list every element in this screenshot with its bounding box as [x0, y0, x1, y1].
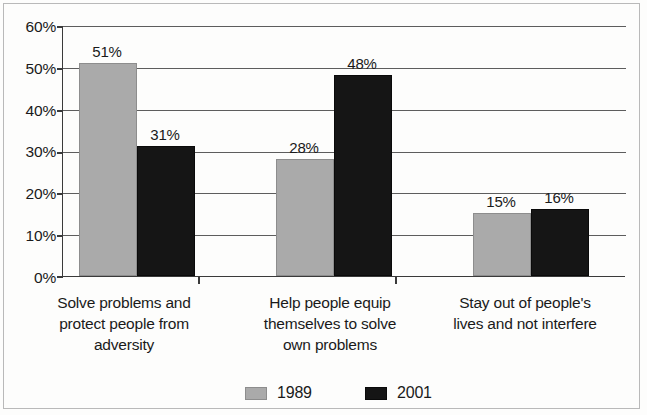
- category-label-help-people-equip: Help people equip themselves to solve ow…: [232, 292, 428, 355]
- category-line: themselves to solve: [232, 313, 428, 334]
- category-line: adversity: [24, 334, 224, 355]
- y-tick-30: [57, 152, 63, 154]
- y-tick-label-30: 30%: [4, 143, 56, 161]
- y-tick-label-20: 20%: [4, 185, 56, 203]
- bar-2001-stay-out[interactable]: [531, 209, 589, 276]
- y-tick-0: [57, 276, 63, 278]
- legend-item-1989[interactable]: 1989: [245, 382, 312, 404]
- y-tick-20: [57, 193, 63, 195]
- chart-legend: 1989 2001: [0, 382, 647, 406]
- legend-label-1989: 1989: [277, 384, 312, 402]
- category-line: protect people from: [24, 313, 224, 334]
- bar-value-1989-help-people-equip: 28%: [275, 139, 333, 156]
- bar-value-2001-solve-problems: 31%: [136, 126, 194, 143]
- bar-1989-solve-problems[interactable]: [79, 63, 137, 276]
- y-tick-label-60: 60%: [4, 18, 56, 36]
- y-tick-60: [57, 26, 63, 28]
- legend-swatch-2001-icon: [365, 387, 387, 400]
- y-tick-label-50: 50%: [4, 60, 56, 78]
- legend-item-2001[interactable]: 2001: [365, 382, 432, 404]
- bar-chart: 60% 50% 40% 30% 20% 10% 0%: [0, 0, 647, 415]
- category-line: Stay out of people's: [425, 292, 625, 313]
- gridline-60: [63, 26, 626, 27]
- y-tick-40: [57, 110, 63, 112]
- category-line: Solve problems and: [24, 292, 224, 313]
- x-tick-1: [395, 277, 397, 284]
- category-line: lives and not interfere: [425, 313, 625, 334]
- bar-value-1989-stay-out: 15%: [472, 193, 530, 210]
- y-tick-label-40: 40%: [4, 102, 56, 120]
- category-label-solve-problems: Solve problems and protect people from a…: [24, 292, 224, 355]
- category-line: Help people equip: [232, 292, 428, 313]
- bar-value-1989-solve-problems: 51%: [78, 43, 136, 60]
- bar-2001-solve-problems[interactable]: [137, 146, 195, 276]
- y-tick-label-10: 10%: [4, 227, 56, 245]
- chart-page: 60% 50% 40% 30% 20% 10% 0%: [0, 0, 647, 415]
- y-tick-50: [57, 68, 63, 70]
- bar-1989-stay-out[interactable]: [473, 213, 531, 276]
- bar-value-2001-help-people-equip: 48%: [333, 55, 391, 72]
- y-tick-label-0: 0%: [4, 269, 56, 287]
- legend-label-2001: 2001: [397, 384, 432, 402]
- y-tick-10: [57, 235, 63, 237]
- x-tick-0: [198, 277, 200, 284]
- bar-value-2001-stay-out: 16%: [530, 189, 588, 206]
- category-line: own problems: [232, 334, 428, 355]
- bar-2001-help-people-equip[interactable]: [334, 75, 392, 276]
- bar-1989-help-people-equip[interactable]: [276, 159, 334, 276]
- category-label-stay-out: Stay out of people's lives and not inter…: [425, 292, 625, 334]
- legend-swatch-1989-icon: [245, 387, 267, 400]
